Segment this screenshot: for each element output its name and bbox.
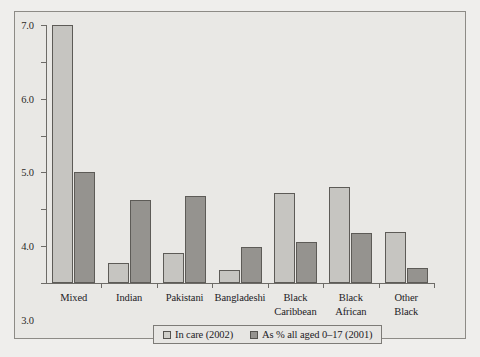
chart-legend: In care (2002) As % all aged 0–17 (2001) <box>153 325 382 344</box>
y-tick: 4.0 <box>41 136 46 137</box>
bar <box>296 242 317 283</box>
bar-group <box>219 25 262 283</box>
y-tick: 5.0 <box>41 99 46 100</box>
x-tick <box>157 283 158 288</box>
category-label-line: Black <box>268 291 323 305</box>
bar <box>219 270 240 283</box>
legend-label-all-aged: As % all aged 0–17 (2001) <box>262 329 372 340</box>
y-axis-line <box>46 25 47 284</box>
x-tick <box>101 283 102 288</box>
y-tick-label: 7.0 <box>21 20 34 31</box>
x-tick <box>212 283 213 288</box>
bar <box>351 233 372 283</box>
category-label-line: Indian <box>101 291 156 305</box>
y-tick: 1.0 <box>41 246 46 247</box>
x-axis-line <box>46 283 435 284</box>
bar <box>407 268 428 283</box>
x-tick <box>379 283 380 288</box>
category-label-line: Mixed <box>46 291 101 305</box>
category-label: Indian <box>101 291 156 305</box>
category-label-line: Pakistani <box>157 291 212 305</box>
y-tick: 0.0 <box>41 283 46 284</box>
bar <box>130 200 151 283</box>
bar-group <box>108 25 151 283</box>
legend-item-in-care[interactable]: In care (2002) <box>163 329 233 340</box>
bar <box>185 196 206 283</box>
category-label: BlackCaribbean <box>268 291 323 318</box>
bar-group <box>52 25 95 283</box>
category-label: BlackAfrican <box>323 291 378 318</box>
bar <box>329 187 350 283</box>
category-label-line: Other <box>379 291 434 305</box>
bar-group <box>163 25 206 283</box>
y-tick-label: 4.0 <box>21 241 34 252</box>
y-tick-label: 5.0 <box>21 167 34 178</box>
bar-group <box>329 25 372 283</box>
category-label: Bangladeshi <box>212 291 267 305</box>
category-label-line: Caribbean <box>268 305 323 319</box>
bar <box>385 232 406 283</box>
x-tick <box>268 283 269 288</box>
y-tick: 3.0 <box>41 172 46 173</box>
bar-group <box>274 25 317 283</box>
legend-item-all-aged[interactable]: As % all aged 0–17 (2001) <box>250 329 372 340</box>
x-tick <box>434 283 435 288</box>
category-label-line: Black <box>323 291 378 305</box>
y-tick: 7.0 <box>41 25 46 26</box>
square-filled-icon <box>250 331 258 339</box>
plot-area: 0.01.02.03.04.05.06.07.0 MixedIndianPaki… <box>46 25 434 283</box>
category-label: Mixed <box>46 291 101 305</box>
y-tick-label: 3.0 <box>21 314 34 325</box>
chart-figure: 0.01.02.03.04.05.06.07.0 MixedIndianPaki… <box>14 11 466 339</box>
y-tick: 2.0 <box>41 209 46 210</box>
category-label-line: Black <box>379 305 434 319</box>
category-label-line: African <box>323 305 378 319</box>
bar <box>241 247 262 283</box>
bar <box>274 193 295 283</box>
bar <box>52 25 73 283</box>
bar <box>163 253 184 283</box>
y-tick-label: 6.0 <box>21 93 34 104</box>
x-tick <box>323 283 324 288</box>
square-outline-icon <box>163 331 171 339</box>
bar <box>74 172 95 283</box>
bar <box>108 263 129 283</box>
category-label-line: Bangladeshi <box>212 291 267 305</box>
bar-group <box>385 25 428 283</box>
category-label: Pakistani <box>157 291 212 305</box>
y-tick: 6.0 <box>41 62 46 63</box>
category-label: OtherBlack <box>379 291 434 318</box>
legend-label-in-care: In care (2002) <box>175 329 233 340</box>
